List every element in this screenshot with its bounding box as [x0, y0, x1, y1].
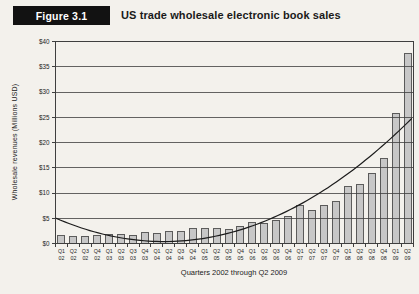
bar-Q1-07: [297, 206, 304, 244]
x-label-q-Q2-05: Q2: [213, 248, 220, 254]
bar-Q4-06: [285, 216, 292, 243]
x-label-q-Q2-02: Q2: [70, 248, 77, 254]
bar-Q2-06: [261, 223, 268, 243]
bar-Q3-02: [82, 236, 89, 243]
bar-Q3-08: [368, 173, 375, 243]
x-label-yr-Q3-07: 07: [321, 255, 327, 261]
x-label-yr-Q1-03: 03: [106, 255, 112, 261]
x-label-q-Q3-03: Q3: [130, 248, 137, 254]
x-label-yr-Q3-03: 03: [130, 255, 136, 261]
bar-Q3-06: [273, 220, 280, 243]
x-label-q-Q2-04: Q2: [165, 248, 172, 254]
y-tick-label-$10: $10: [39, 189, 50, 196]
x-label-yr-Q4-05: 05: [238, 255, 244, 261]
x-label-q-Q3-02: Q3: [82, 248, 89, 254]
x-label-q-Q2-06: Q2: [261, 248, 268, 254]
x-label-yr-Q2-09: 09: [405, 255, 411, 261]
bar-Q1-05: [201, 229, 208, 244]
x-label-yr-Q1-09: 09: [393, 255, 399, 261]
x-label-q-Q4-02: Q4: [94, 248, 101, 254]
bar-Q4-02: [94, 235, 101, 243]
x-label-q-Q1-05: Q1: [201, 248, 208, 254]
y-tick-label-$0: $0: [42, 240, 50, 247]
x-label-q-Q4-05: Q4: [237, 248, 244, 254]
x-label-q-Q2-08: Q2: [356, 248, 363, 254]
x-label-yr-Q4-07: 07: [333, 255, 339, 261]
bar-Q4-08: [380, 159, 387, 244]
x-label-yr-Q2-04: 04: [166, 255, 172, 261]
bar-Q4-07: [332, 202, 339, 244]
x-label-yr-Q3-06: 06: [273, 255, 279, 261]
bar-Q3-04: [177, 232, 184, 244]
x-label-q-Q3-04: Q3: [177, 248, 184, 254]
x-label-q-Q2-09: Q2: [404, 248, 411, 254]
x-label-q-Q3-05: Q3: [225, 248, 232, 254]
x-label-yr-Q3-04: 04: [178, 255, 184, 261]
y-tick-label-$25: $25: [39, 114, 50, 121]
x-label-q-Q4-07: Q4: [332, 248, 339, 254]
bar-Q2-08: [356, 185, 363, 244]
x-label-q-Q1-04: Q1: [153, 248, 160, 254]
x-label-yr-Q1-08: 08: [345, 255, 351, 261]
x-label-q-Q2-03: Q2: [118, 248, 125, 254]
bar-Q2-09: [404, 54, 411, 244]
x-axis-title: Quarters 2002 through Q2 2009: [181, 268, 287, 277]
y-tick-label-$40: $40: [39, 38, 50, 45]
x-label-yr-Q2-02: 02: [70, 255, 76, 261]
x-label-q-Q1-03: Q1: [106, 248, 113, 254]
x-label-q-Q1-06: Q1: [249, 248, 256, 254]
x-label-q-Q1-09: Q1: [392, 248, 399, 254]
bar-Q1-09: [392, 113, 399, 243]
bar-Q4-03: [142, 233, 149, 244]
x-label-q-Q4-06: Q4: [285, 248, 292, 254]
x-label-q-Q3-06: Q3: [273, 248, 280, 254]
x-label-yr-Q1-06: 06: [249, 255, 255, 261]
x-label-q-Q1-02: Q1: [58, 248, 65, 254]
bar-Q1-08: [344, 187, 351, 244]
wholesale-ebook-sales-bar-chart: $0$5$10$15$20$25$30$35$40Q102Q202Q302Q40…: [0, 0, 419, 294]
y-tick-label-$5: $5: [42, 215, 50, 222]
x-label-yr-Q3-02: 02: [82, 255, 88, 261]
x-label-yr-Q4-08: 08: [381, 255, 387, 261]
x-label-q-Q3-08: Q3: [368, 248, 375, 254]
bar-Q4-04: [189, 229, 196, 244]
x-label-yr-Q4-03: 03: [142, 255, 148, 261]
y-tick-label-$30: $30: [39, 88, 50, 95]
scanned-figure-page: Figure 3.1 US trade wholesale electronic…: [0, 0, 419, 294]
x-label-yr-Q4-06: 06: [285, 255, 291, 261]
y-tick-label-$20: $20: [39, 139, 50, 146]
x-label-q-Q1-08: Q1: [344, 248, 351, 254]
y-tick-label-$15: $15: [39, 164, 50, 171]
x-label-yr-Q1-07: 07: [297, 255, 303, 261]
x-label-yr-Q4-04: 04: [190, 255, 196, 261]
x-label-yr-Q2-07: 07: [309, 255, 315, 261]
x-label-q-Q4-08: Q4: [380, 248, 387, 254]
x-label-yr-Q2-08: 08: [357, 255, 363, 261]
x-label-yr-Q2-06: 06: [261, 255, 267, 261]
y-tick-label-$35: $35: [39, 63, 50, 70]
x-label-yr-Q4-02: 02: [94, 255, 100, 261]
x-label-yr-Q3-08: 08: [369, 255, 375, 261]
x-label-q-Q3-07: Q3: [320, 248, 327, 254]
x-label-q-Q2-07: Q2: [309, 248, 316, 254]
x-label-yr-Q3-05: 05: [226, 255, 232, 261]
x-label-yr-Q1-05: 05: [202, 255, 208, 261]
x-label-q-Q4-04: Q4: [189, 248, 196, 254]
bar-Q2-02: [70, 237, 77, 244]
x-label-yr-Q1-04: 04: [154, 255, 160, 261]
bar-Q2-03: [118, 234, 125, 243]
x-label-q-Q1-07: Q1: [297, 248, 304, 254]
x-label-yr-Q2-03: 03: [118, 255, 124, 261]
x-label-q-Q4-03: Q4: [141, 248, 148, 254]
x-label-yr-Q1-02: 02: [59, 255, 65, 261]
bar-Q2-07: [309, 210, 316, 243]
bar-Q3-07: [321, 205, 328, 243]
bar-Q1-02: [58, 236, 65, 244]
x-label-yr-Q2-05: 05: [214, 255, 220, 261]
